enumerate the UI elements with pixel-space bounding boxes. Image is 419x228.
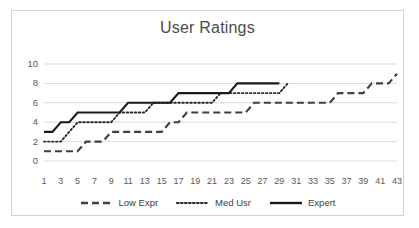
legend-item[interactable]: Med Usr	[176, 197, 251, 208]
y-axis-tick-label: 4	[16, 116, 38, 127]
y-axis-tick-label: 0	[16, 155, 38, 166]
y-axis-tick-label: 6	[16, 97, 38, 108]
y-axis-tick-label: 2	[16, 136, 38, 147]
y-axis-tick-label: 10	[16, 58, 38, 69]
legend-label: Low Expr	[119, 197, 159, 208]
x-axis-tick-label: 43	[387, 176, 407, 186]
legend-swatch-icon	[269, 199, 303, 207]
legend-label: Expert	[308, 197, 335, 208]
legend-swatch-icon	[176, 199, 210, 207]
series-lines	[44, 74, 397, 152]
legend-item[interactable]: Expert	[269, 197, 335, 208]
series-line	[44, 83, 279, 131]
chart-legend: Low ExprMed UsrExpert	[12, 197, 403, 208]
legend-label: Med Usr	[215, 197, 251, 208]
legend-swatch-icon	[80, 199, 114, 207]
y-axis-tick-label: 8	[16, 77, 38, 88]
legend-item[interactable]: Low Expr	[80, 197, 159, 208]
plot-area	[12, 11, 405, 217]
chart-container: User Ratings 0246810 1357911131517192123…	[11, 10, 404, 216]
